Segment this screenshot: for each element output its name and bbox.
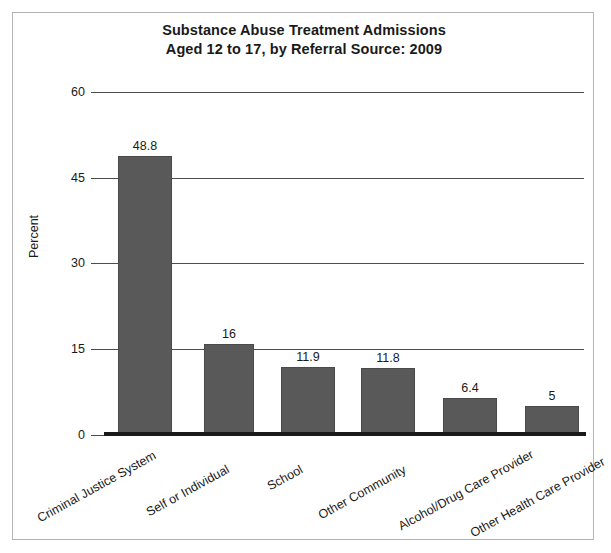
- ytick-mark-60: [91, 92, 104, 93]
- ytick-mark-30: [91, 263, 104, 264]
- x-axis-line: [104, 432, 586, 436]
- bar-self-or-individual[interactable]: 16: [204, 344, 254, 435]
- bar-school[interactable]: 11.9: [281, 367, 335, 435]
- bar-value-label: 11.9: [296, 350, 319, 364]
- bar-value-label: 11.8: [376, 351, 399, 365]
- gridline-15: [104, 349, 584, 350]
- chart-frame: Substance Abuse Treatment Admissions Age…: [12, 12, 594, 540]
- xtick-label-school: School: [265, 462, 305, 493]
- gridline-30: [104, 263, 584, 264]
- chart-title: Substance Abuse Treatment Admissions Age…: [13, 21, 595, 59]
- ytick-label-60: 60: [71, 85, 85, 99]
- ytick-mark-15: [91, 349, 104, 350]
- ytick-label-15: 15: [71, 342, 85, 356]
- bar-value-label: 5: [549, 389, 556, 403]
- y-axis-title: Percent: [27, 215, 41, 258]
- bar-other-community[interactable]: 11.8: [361, 368, 415, 435]
- ytick-mark-0: [91, 435, 104, 436]
- gridline-60: [104, 92, 584, 93]
- ytick-label-0: 0: [78, 428, 85, 442]
- xtick-label-self-or-individual: Self or Individual: [144, 462, 232, 519]
- xtick-label-alcohol-drug-care-provider: Alcohol/Drug Care Provider: [396, 447, 536, 533]
- bar-value-label: 6.4: [461, 381, 478, 395]
- chart-title-line-1: Substance Abuse Treatment Admissions: [13, 21, 595, 40]
- ytick-mark-45: [91, 178, 104, 179]
- bar-value-label: 16: [222, 327, 236, 341]
- ytick-label-45: 45: [71, 171, 85, 185]
- xtick-label-other-community: Other Community: [316, 463, 408, 523]
- bar-alcohol-drug-care-provider[interactable]: 6.4: [443, 398, 497, 435]
- gridline-45: [104, 178, 584, 179]
- chart-title-line-2: Aged 12 to 17, by Referral Source: 2009: [13, 40, 595, 59]
- xtick-label-criminal-justice-system: Criminal Justice System: [35, 448, 158, 525]
- plot-area: 60 45 30 15 0 48.8 16 11.9 11.8 6.4 5: [104, 92, 584, 435]
- bar-other-health-care-provider[interactable]: 5: [525, 406, 579, 435]
- bar-criminal-justice-system[interactable]: 48.8: [118, 156, 172, 435]
- bar-value-label: 48.8: [133, 139, 157, 153]
- ytick-label-30: 30: [71, 256, 85, 270]
- xtick-label-other-health-care-provider: Other Health Care Provider: [468, 455, 607, 541]
